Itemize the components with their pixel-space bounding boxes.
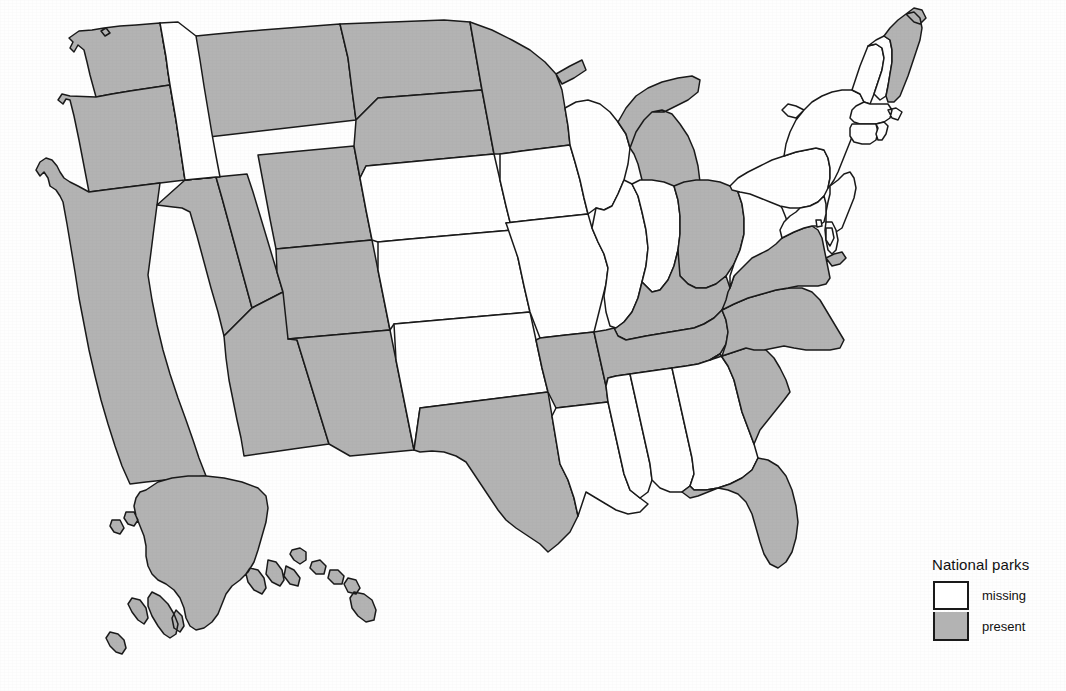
legend-title: National parks [932,556,1062,573]
state-NE[interactable] [360,154,512,242]
state-WA[interactable] [69,23,170,97]
legend-swatch-missing [933,581,969,610]
map-legend: National parks missing present [932,556,1062,660]
us-states-map [0,0,1066,691]
state-MA[interactable] [850,102,902,124]
state-AK[interactable] [106,476,300,654]
choropleth-map-figure: National parks missing present [0,0,1066,691]
state-DC[interactable] [816,220,822,227]
state-RI[interactable] [876,122,888,140]
legend-row-present[interactable]: present [933,611,1026,642]
legend-row-missing[interactable]: missing [933,580,1026,611]
legend-key-list: missing present [933,580,1026,642]
legend-label-missing: missing [982,588,1026,603]
legend-label-present: present [982,619,1025,634]
legend-swatch-present [933,612,969,641]
state-OR[interactable] [58,85,185,192]
state-WY[interactable] [258,146,372,249]
state-HI[interactable] [290,548,376,622]
state-CO[interactable] [276,240,390,339]
state-CT[interactable] [850,124,878,144]
